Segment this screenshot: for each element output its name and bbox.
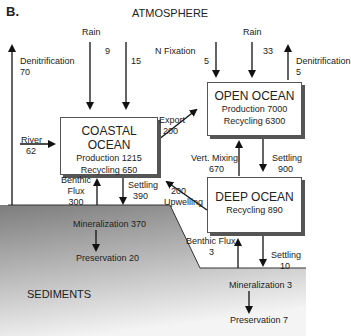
rain-open-value: 33 — [263, 46, 273, 57]
settling-deep-value: 10 — [280, 261, 290, 272]
settling-deep-label: Settling — [271, 250, 301, 261]
rain-coastal-value-1: 9 — [105, 46, 110, 57]
upwelling-value: 200 — [171, 186, 186, 197]
settling-open-value: 900 — [278, 164, 293, 175]
coastal-ocean-box: COASTAL OCEAN Production 1215 Recycling … — [60, 117, 158, 175]
benthic-coastal-value: 300 — [58, 197, 94, 208]
sediments-label: SEDIMENTS — [27, 289, 91, 300]
river-label: River — [21, 135, 42, 146]
deep-ocean-box: DEEP OCEAN Recycling 890 — [207, 177, 302, 233]
denitrification-left-value: 70 — [20, 67, 30, 78]
benthic-deep-value: 3 — [209, 247, 214, 258]
n-fixation-label: N Fixation — [155, 46, 196, 57]
preservation-deep: Preservation 7 — [230, 315, 288, 326]
panel-label: B. — [6, 4, 19, 19]
export-label: Export — [159, 115, 185, 126]
mineralization-coastal: Mineralization 370 — [73, 219, 146, 230]
vert-mixing-label: Vert. Mixing — [191, 153, 238, 164]
coastal-production: Production 1215 — [61, 152, 157, 164]
settling-coastal-value: 390 — [133, 191, 148, 202]
rain-coastal-label: Rain — [82, 27, 101, 38]
upwelling-label: Upwelling — [164, 197, 203, 208]
open-ocean-box: OPEN OCEAN Production 7000 Recycling 630… — [207, 82, 302, 136]
denitrification-right-value: 5 — [296, 67, 301, 78]
benthic-coastal-label-1: Benthic — [58, 175, 94, 186]
settling-coastal-label: Settling — [128, 180, 158, 191]
vert-mixing-value: 670 — [209, 164, 224, 175]
benthic-deep-label: Benthic Flux — [186, 236, 236, 247]
denitrification-right-label: Denitrification — [296, 56, 351, 67]
deep-recycling: Recycling 890 — [208, 204, 301, 216]
rain-open-label: Rain — [243, 27, 262, 38]
open-ocean-title: OPEN OCEAN — [208, 89, 301, 103]
mineralization-deep: Mineralization 3 — [229, 280, 292, 291]
export-value: 200 — [163, 126, 178, 137]
atmosphere-label: ATMOSPHERE — [132, 8, 208, 19]
rain-coastal-value-2: 15 — [131, 56, 141, 67]
open-production: Production 7000 — [208, 103, 301, 115]
settling-open-label: Settling — [272, 153, 302, 164]
benthic-coastal-label-2: Flux — [58, 186, 94, 197]
preservation-coastal: Preservation 20 — [76, 253, 139, 264]
deep-ocean-title: DEEP OCEAN — [208, 190, 301, 204]
river-value: 62 — [26, 146, 36, 157]
denitrification-left-label: Denitrification — [20, 56, 75, 67]
open-recycling: Recycling 6300 — [208, 115, 301, 127]
n-fixation-value: 5 — [204, 56, 209, 67]
coastal-ocean-title: COASTAL OCEAN — [61, 124, 157, 152]
